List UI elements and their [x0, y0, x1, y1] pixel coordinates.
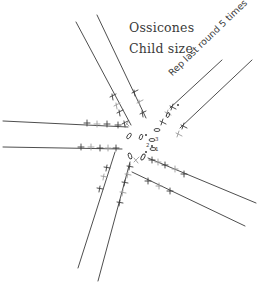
arm-line-top-right-2 [180, 60, 252, 128]
chain-stitches [126, 112, 170, 160]
arm-line-bottom-1 [78, 152, 115, 268]
arm-line-right-2 [132, 172, 245, 226]
slip-stitch-dots [145, 104, 179, 153]
arm-line-left-2 [3, 147, 122, 149]
round-label-2: 2 [146, 142, 150, 148]
round-label-3: 3 [155, 136, 159, 142]
diagram-title: Ossicones [129, 20, 194, 35]
round-label-1: 1 [155, 146, 159, 152]
arm-line-top-left-1 [76, 22, 131, 125]
